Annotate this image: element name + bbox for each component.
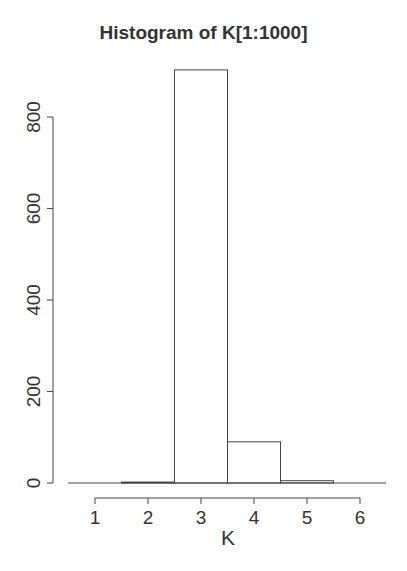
y-tick-label: 600 bbox=[23, 193, 44, 225]
x-tick-label: 5 bbox=[302, 507, 313, 528]
histogram-bar bbox=[175, 70, 228, 483]
x-tick-label: 3 bbox=[196, 507, 207, 528]
histogram-bar bbox=[228, 442, 281, 483]
x-tick-label: 2 bbox=[143, 507, 154, 528]
x-tick-label: 4 bbox=[249, 507, 260, 528]
histogram-bars bbox=[122, 70, 334, 483]
y-axis: 0200400600800 bbox=[23, 101, 53, 488]
y-tick-label: 0 bbox=[23, 478, 44, 489]
y-tick-label: 800 bbox=[23, 101, 44, 133]
histogram-plot: 0200400600800 123456 K bbox=[0, 0, 407, 571]
y-tick-label: 400 bbox=[23, 284, 44, 316]
x-axis: 123456 bbox=[90, 498, 366, 528]
x-axis-label: K bbox=[221, 526, 235, 549]
x-tick-label: 6 bbox=[355, 507, 366, 528]
x-tick-label: 1 bbox=[90, 507, 101, 528]
y-tick-label: 200 bbox=[23, 376, 44, 408]
